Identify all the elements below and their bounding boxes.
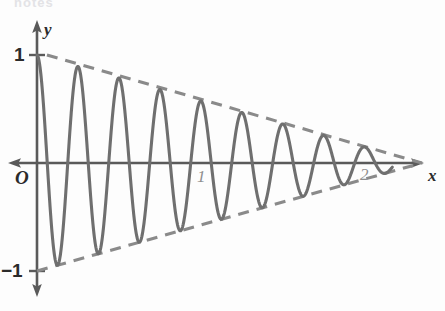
plot-canvas [0,0,445,311]
x-tick-label-one: 1 [197,168,206,185]
origin-label: O [15,168,29,187]
x-tick-label-two: 2 [360,166,369,183]
damped-oscillation-curve [37,55,392,265]
damped-oscillation-figure: notes y [0,0,445,311]
x-axis-label: x [428,167,437,184]
y-tick-label-one: 1 [14,45,25,64]
y-tick-label-negative-one: −1 [1,261,23,280]
y-axis-label: y [44,21,52,38]
